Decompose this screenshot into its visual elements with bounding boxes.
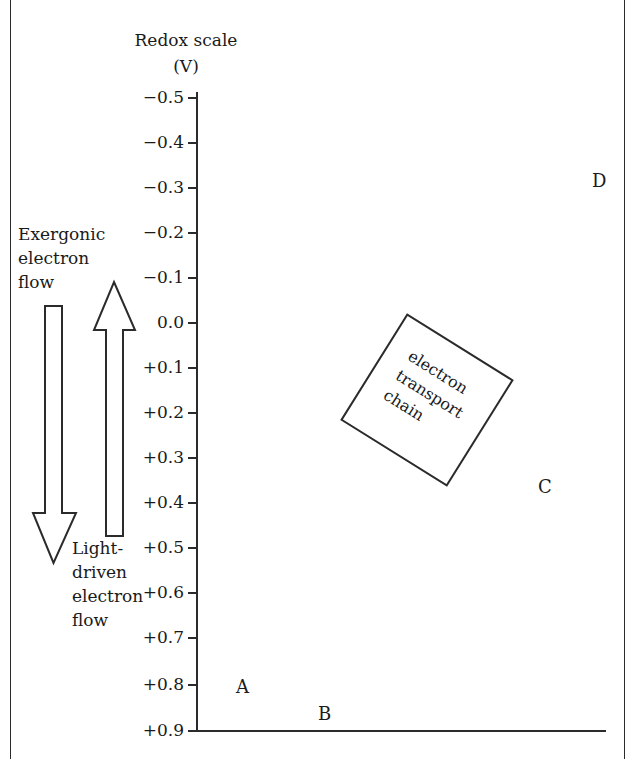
y-axis-tick-label-group: +0.9 <box>108 722 184 739</box>
point-label-d: D <box>592 172 606 190</box>
y-axis-tick <box>188 187 197 189</box>
y-axis-tick-label-group: −0.5 <box>108 89 184 106</box>
y-axis-tick <box>188 412 197 414</box>
chart-title-line-1: Redox scale <box>96 27 276 53</box>
y-axis-tick-label: −0.4 <box>114 134 184 151</box>
y-axis-tick <box>188 142 197 144</box>
y-axis-tick <box>188 592 197 594</box>
electron-transport-chain-label: electron transport chain <box>379 345 504 459</box>
point-label-b: B <box>318 705 331 723</box>
light-driven-flow-caption: Light- driven electron flow <box>72 536 143 632</box>
page-border-left <box>10 0 11 759</box>
exergonic-arrow <box>92 280 138 538</box>
y-axis-tick-label-group: −0.3 <box>108 179 184 196</box>
light-driven-arrow <box>32 305 78 567</box>
y-axis-tick <box>188 322 197 324</box>
y-axis-tick <box>188 547 197 549</box>
y-axis-tick <box>188 457 197 459</box>
y-axis-tick <box>188 277 197 279</box>
y-axis-tick-label: +0.8 <box>114 676 184 693</box>
y-axis-tick <box>188 637 197 639</box>
light-caption-line-4: flow <box>72 608 143 632</box>
chart-title-line-2: (V) <box>96 53 276 79</box>
y-axis-tick <box>188 97 197 99</box>
light-caption-line-2: driven <box>72 560 143 584</box>
y-axis-tick-label: −0.5 <box>114 89 184 106</box>
exergonic-flow-caption: Exergonic electron flow <box>18 222 105 294</box>
electron-transport-chain-box: electron transport chain <box>340 313 514 487</box>
y-axis-tick-label-group: −0.4 <box>108 134 184 151</box>
y-axis-tick <box>188 730 197 732</box>
figure-canvas: Redox scale (V) −0.5 −0.4 −0.3 −0.2 −0.1… <box>0 0 629 759</box>
y-axis-tick <box>188 367 197 369</box>
y-axis-tick <box>188 502 197 504</box>
y-axis-tick <box>188 684 197 686</box>
point-label-a: A <box>236 678 249 696</box>
y-axis-tick-label: −0.3 <box>114 179 184 196</box>
y-axis-tick-label: +0.9 <box>114 722 184 739</box>
exergonic-caption-line-3: flow <box>18 270 105 294</box>
exergonic-caption-line-1: Exergonic <box>18 222 105 246</box>
x-axis-line <box>196 730 606 732</box>
y-axis-tick-label-group: −0.2 <box>108 224 184 241</box>
y-axis-tick <box>188 232 197 234</box>
exergonic-caption-line-2: electron <box>18 246 105 270</box>
light-caption-line-1: Light- <box>72 536 143 560</box>
light-caption-line-3: electron <box>72 584 143 608</box>
page-border-right <box>624 0 625 759</box>
chart-title: Redox scale (V) <box>96 27 276 79</box>
point-label-c: C <box>538 478 552 496</box>
y-axis-tick-label-group: +0.8 <box>108 676 184 693</box>
y-axis-tick-label: −0.2 <box>114 224 184 241</box>
